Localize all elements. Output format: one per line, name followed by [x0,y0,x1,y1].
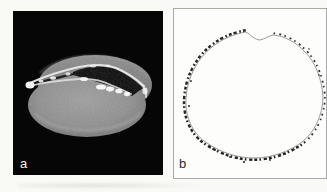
panel-b-label: b [179,157,186,170]
specimen-sem-drawing [13,11,163,175]
background-smudge [18,182,208,189]
panel-b-outline-drawing: b [173,8,327,179]
panel-a-label: a [20,157,27,170]
cross-section-outline [174,9,326,178]
two-panel-figure: a b [0,0,327,192]
panel-a-sem-image: a [13,11,163,175]
